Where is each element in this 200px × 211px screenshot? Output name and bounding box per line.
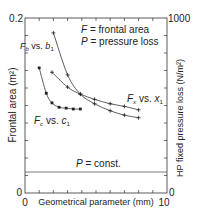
data-point-marker <box>51 31 55 35</box>
x-axis-label: Geometrical parameter (mm) <box>38 197 154 207</box>
label-fc-vs-c1: Fc vs. c1 <box>34 115 70 127</box>
data-point-marker <box>137 116 141 120</box>
data-point-marker <box>108 109 112 113</box>
legend-pressure-loss: P = pressure loss <box>81 36 159 47</box>
data-point-marker <box>72 108 75 111</box>
x-tick-right: 10 <box>158 197 170 208</box>
chart: P = const. F = frontal area P = pressure… <box>0 0 200 211</box>
data-point-marker <box>122 113 126 117</box>
p-const-label: P = const. <box>76 158 121 169</box>
data-point-marker <box>51 101 54 104</box>
data-point-marker <box>45 92 48 95</box>
y-axis-right-label: HP fixed pressure loss (N/m²) <box>175 59 185 177</box>
label-fx-vs-x1: Fx vs. x1 <box>127 93 163 105</box>
data-point-marker <box>38 66 41 69</box>
y-tick-top: 0.2 <box>9 13 23 24</box>
data-point-marker <box>79 108 82 111</box>
data-point-marker <box>58 106 61 109</box>
y-right-tick-top: 1000 <box>168 13 191 24</box>
data-point-marker <box>122 104 126 108</box>
y-axis-label: Frontal area (m²) <box>7 67 18 142</box>
data-point-marker <box>93 102 97 106</box>
legend-frontal-area: F = frontal area <box>81 24 150 35</box>
label-fb-vs-b1: Fb vs. b1 <box>20 41 54 52</box>
data-point-marker <box>65 107 68 110</box>
y-right-tick-bottom: 0 <box>169 187 175 198</box>
x-tick-left: 0 <box>22 197 28 208</box>
data-point-marker <box>137 108 141 112</box>
data-point-marker <box>108 102 112 106</box>
data-point-marker <box>93 97 97 101</box>
data-point-marker <box>66 73 70 77</box>
series-fx-vs-x1 <box>50 70 141 112</box>
